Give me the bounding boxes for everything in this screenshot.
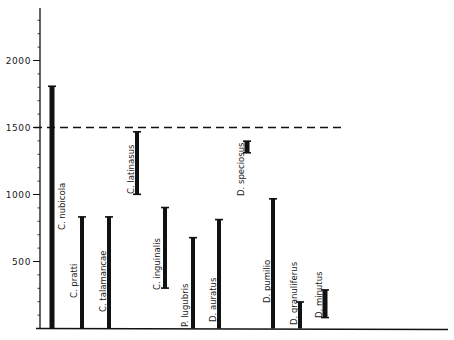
bar-cap-top xyxy=(269,198,277,200)
bar-cap-top xyxy=(48,85,56,87)
range-bar xyxy=(161,207,169,289)
bar-cap-top xyxy=(189,237,197,239)
range-bar xyxy=(48,85,56,328)
species-label: P. lugubris xyxy=(180,283,190,327)
bar-cap-top xyxy=(105,216,113,218)
species-label: D. granuliferus xyxy=(289,261,299,325)
y-tick-label: 500 xyxy=(12,257,31,267)
species-label: C. pratti xyxy=(69,264,79,298)
y-tick-label: 2000 xyxy=(6,56,31,66)
range-bar xyxy=(78,216,86,328)
bar-cap-top xyxy=(133,131,141,133)
species-label: C. talamancae xyxy=(98,251,108,312)
species-label: C. inguinalis xyxy=(152,237,162,290)
species-label: D. speciosus xyxy=(236,142,246,196)
bar-cap-top xyxy=(243,140,251,142)
species-label: D. auratus xyxy=(208,277,218,322)
species-labels: C. nubicolaC. prattiC. talamancaeC. lati… xyxy=(57,142,324,327)
bar-cap-bottom xyxy=(161,287,169,289)
species-label: C. latinasus xyxy=(126,144,136,194)
range-chart: 500100015002000 C. nubicolaC. prattiC. t… xyxy=(0,0,454,340)
species-label: D. minutus xyxy=(314,271,324,318)
x-axis-line xyxy=(36,329,448,330)
species-label: C. nubicola xyxy=(57,183,67,230)
bar-cap-top xyxy=(215,219,223,221)
bar-cap-top xyxy=(161,207,169,209)
species-label: D. pumilio xyxy=(262,260,272,303)
range-bar xyxy=(189,237,197,329)
bar-cap-top xyxy=(78,216,86,218)
y-tick-label: 1500 xyxy=(6,123,31,133)
y-tick-label: 1000 xyxy=(6,190,31,200)
